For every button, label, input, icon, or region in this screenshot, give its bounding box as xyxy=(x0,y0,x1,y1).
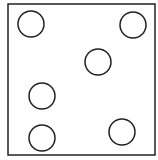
circle-2 xyxy=(120,12,146,38)
circle-6 xyxy=(109,119,135,145)
circles-group xyxy=(18,11,146,151)
circle-3 xyxy=(85,49,111,75)
circle-4 xyxy=(29,83,55,109)
diagram-canvas xyxy=(0,0,158,160)
circle-5 xyxy=(29,125,55,151)
circle-1 xyxy=(18,11,44,37)
